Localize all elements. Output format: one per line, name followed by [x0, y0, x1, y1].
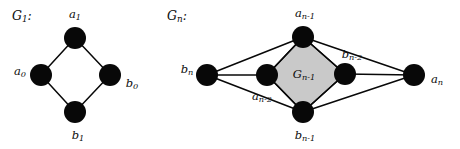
- graph-vertex: [292, 26, 314, 48]
- graph-vertex: [99, 64, 121, 86]
- vertex-label: an: [431, 72, 443, 87]
- graph-vertex: [64, 27, 86, 49]
- graph-vertex: [334, 63, 356, 85]
- graph-title-Gn: Gn:: [167, 8, 187, 24]
- vertex-label: b0: [126, 76, 139, 91]
- vertex-label: b1: [72, 128, 85, 143]
- graph-vertex: [196, 64, 218, 86]
- graph-vertex: [256, 64, 278, 86]
- graph-vertex: [403, 64, 425, 86]
- vertex-label: bn-1: [295, 128, 316, 143]
- graph-title-G1: G1:: [12, 8, 32, 24]
- vertex-label: bn-2: [342, 47, 363, 62]
- graph-vertex: [30, 64, 52, 86]
- vertex-label: an-2: [252, 89, 272, 104]
- vertex-label: a1: [69, 7, 81, 22]
- vertex-label: a0: [14, 64, 26, 79]
- graph-diagram: a1a0b0b1G1:an-1bnan-2bn-2anbn-1Gn-1Gn:: [0, 0, 460, 149]
- graph-vertex: [292, 101, 314, 123]
- graph-vertex: [64, 101, 86, 123]
- vertex-label: an-1: [295, 6, 315, 21]
- edges-layer: [41, 37, 414, 112]
- vertex-label: bn: [181, 62, 194, 77]
- figure-container: a1a0b0b1G1:an-1bnan-2bn-2anbn-1Gn-1Gn:: [0, 0, 460, 149]
